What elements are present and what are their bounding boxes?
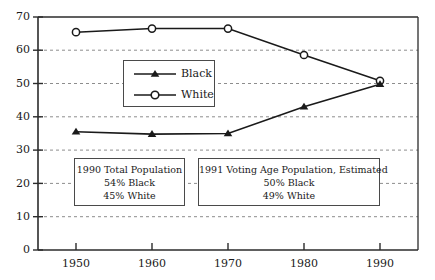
annotation-right-line-1: 1991 Voting Age Population, Estimated <box>199 163 379 176</box>
annotation-right-line-2: 50% Black <box>199 176 379 189</box>
y-tick-label-60: 60 <box>4 44 30 55</box>
y-tick-label-10: 10 <box>4 211 30 222</box>
annotation-right-line-3: 49% White <box>199 189 379 202</box>
series-black <box>72 80 385 137</box>
x-tick-label-1960: 1960 <box>129 258 175 269</box>
legend-entry-white: White <box>124 84 216 106</box>
annotation-total-population: 1990 Total Population 54% Black 45% Whit… <box>74 158 185 206</box>
legend: Black White <box>123 60 215 107</box>
legend-entry-black: Black <box>124 63 216 85</box>
y-tick-label-40: 40 <box>4 111 30 122</box>
x-tick-label-1950: 1950 <box>53 258 99 269</box>
legend-label-black: Black <box>181 68 212 80</box>
y-tick-label-20: 20 <box>4 178 30 189</box>
annotation-voting-age-population: 1991 Voting Age Population, Estimated 50… <box>198 158 380 206</box>
y-tick-label-0: 0 <box>4 244 30 255</box>
annotation-left-line-3: 45% White <box>75 189 184 202</box>
annotation-left-line-1: 1990 Total Population <box>75 163 184 176</box>
plot-canvas <box>0 0 435 280</box>
y-tick-label-70: 70 <box>4 11 30 22</box>
legend-marker-white <box>132 84 178 106</box>
x-axis-ticks <box>76 243 380 250</box>
x-tick-label-1980: 1980 <box>281 258 327 269</box>
line-chart: 70 60 50 40 30 20 10 0 1950 1960 1970 19… <box>0 0 435 280</box>
x-tick-label-1990: 1990 <box>357 258 403 269</box>
legend-marker-black <box>132 63 178 85</box>
legend-label-white: White <box>181 89 214 101</box>
series-white <box>72 25 383 84</box>
y-tick-label-30: 30 <box>4 144 30 155</box>
x-tick-label-1970: 1970 <box>205 258 251 269</box>
annotation-left-line-2: 54% Black <box>75 176 184 189</box>
y-tick-label-50: 50 <box>4 78 30 89</box>
